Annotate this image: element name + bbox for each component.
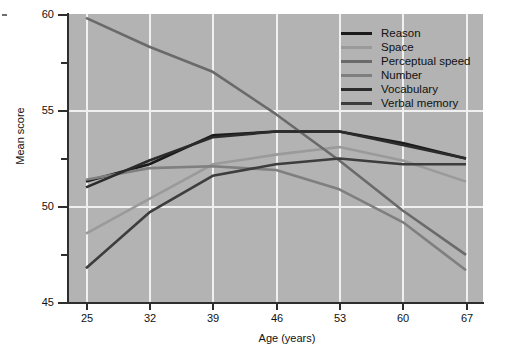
legend-swatch-vocabulary: [341, 88, 372, 91]
legend-label-number: Number: [381, 69, 422, 81]
legend-item-reason: Reason: [341, 26, 471, 40]
legend-swatch-space: [341, 46, 372, 49]
legend-swatch-verbal-memory: [341, 102, 372, 105]
legend-label-space: Space: [381, 41, 414, 53]
series-line-reason: [86, 132, 466, 182]
legend-swatch-perceptual-speed: [341, 60, 372, 63]
series-line-vocabulary: [86, 132, 466, 188]
legend-item-verbal-memory: Verbal memory: [341, 96, 471, 110]
legend-label-reason: Reason: [381, 27, 421, 39]
legend-label-perceptual-speed: Perceptual speed: [381, 55, 471, 67]
legend-swatch-number: [341, 74, 372, 77]
legend-swatch-reason: [341, 32, 372, 35]
legend-label-vocabulary: Vocabulary: [381, 83, 438, 95]
legend-item-perceptual-speed: Perceptual speed: [341, 54, 471, 68]
legend-label-verbal-memory: Verbal memory: [381, 97, 458, 109]
legend-item-space: Space: [341, 40, 471, 54]
series-line-space: [86, 147, 466, 234]
legend-item-number: Number: [341, 68, 471, 82]
legend-item-vocabulary: Vocabulary: [341, 82, 471, 96]
legend: Reason Space Perceptual speed Number Voc…: [341, 26, 471, 110]
line-chart-figure: 60 55 50 45 25 32 39 46 53 60 67 Age (ye…: [0, 0, 518, 357]
